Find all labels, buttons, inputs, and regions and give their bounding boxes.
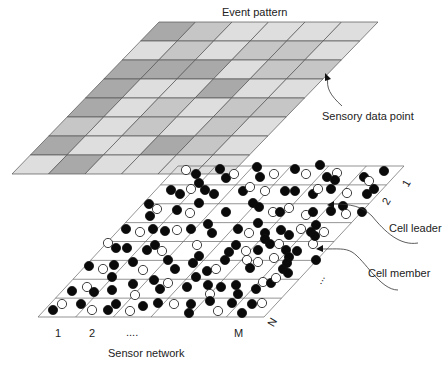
cell-member-node (103, 238, 112, 247)
cell-leader-node (231, 280, 240, 289)
cell-leader-node (233, 224, 242, 233)
cell-leader-node (48, 305, 57, 314)
cell-leader-node (182, 282, 191, 291)
cell-leader-node (253, 218, 262, 227)
cell-leader-node (265, 239, 274, 248)
cell-member-node (125, 306, 134, 315)
cell-leader-node (220, 255, 229, 264)
cell-member-node (284, 203, 293, 212)
cell-leader-node (315, 160, 324, 169)
cell-leader-node (172, 205, 181, 214)
cell-leader-node (237, 308, 246, 317)
cell-leader-node (221, 207, 230, 216)
cell-leader-label: Cell leader (389, 222, 442, 234)
cell-leader-node (280, 186, 289, 195)
cell-leader-node (308, 207, 317, 216)
cell-leader-node (254, 202, 263, 211)
cell-leader-node (67, 286, 76, 295)
cell-leader-node (216, 282, 225, 291)
cell-leader-node (184, 308, 193, 317)
cell-leader-node (191, 169, 200, 178)
cell-leader-node (247, 299, 256, 308)
cell-leader-node (203, 219, 212, 228)
cell-leader-node (253, 245, 262, 254)
cell-leader-node (76, 299, 85, 308)
cell-leader-node (84, 261, 93, 270)
cell-member-node (364, 176, 373, 185)
cell-leader-node (166, 185, 175, 194)
cell-member-node (319, 227, 328, 236)
cell-member-node (342, 188, 351, 197)
cell-member-node (241, 246, 250, 255)
cell-member-node (186, 184, 195, 193)
cell-leader-node (255, 172, 264, 181)
cell-leader-node (107, 285, 116, 294)
cell-leader-node (103, 305, 112, 314)
cell-member-node (185, 208, 194, 217)
cell-leader-node (202, 266, 211, 275)
sensor-nodes (48, 160, 388, 317)
event-pattern-grid (12, 22, 378, 174)
cell-leader-node (292, 246, 301, 255)
cell-leader-node (252, 162, 261, 171)
cell-member-node (152, 204, 161, 213)
sensory-data-point-label: Sensory data point (322, 110, 414, 122)
event-pattern-title: Event pattern (222, 6, 287, 18)
cell-member-node (341, 209, 350, 218)
cell-leader-node (209, 189, 218, 198)
cell-leader-node (163, 255, 172, 264)
cell-leader-node (145, 211, 154, 220)
sensory-data-point-arrow (328, 77, 342, 106)
cell-leader-node (188, 258, 197, 267)
cell-leader-node (311, 255, 320, 264)
cell-leader-node (121, 224, 130, 233)
cell-member-node (296, 224, 305, 233)
cell-member-node (57, 299, 66, 308)
cell-leader-node (311, 220, 320, 229)
cell-leader-node (170, 264, 179, 273)
cell-leader-node (233, 289, 242, 298)
cell-leader-node (379, 166, 388, 175)
cell-leader-node (215, 164, 224, 173)
cell-leader-node (160, 226, 169, 235)
cell-leader-node (284, 230, 293, 239)
cell-member-node (87, 305, 96, 314)
cell-leader-node (111, 243, 120, 252)
column-label-1: 1 (55, 327, 61, 339)
cell-member-node (135, 227, 144, 236)
cell-leader-node (89, 287, 98, 296)
cell-leader-node (186, 224, 195, 233)
cell-leader-node (310, 231, 319, 240)
cell-member-node (269, 169, 278, 178)
cell-member-node (138, 265, 147, 274)
cell-member-node (269, 253, 278, 262)
cell-member-node (260, 186, 269, 195)
cell-leader-node (128, 279, 137, 288)
column-label-m: M (234, 327, 243, 339)
cell-leader-node (200, 185, 209, 194)
cell-member-node (229, 169, 238, 178)
cell-member-node (245, 182, 254, 191)
cell-leader-node (107, 272, 116, 281)
cell-leader-node (283, 268, 292, 277)
cell-leader-node (111, 299, 120, 308)
cell-leader-node (205, 296, 214, 305)
cell-member-node (313, 184, 322, 193)
cell-member-node (257, 298, 266, 307)
cell-leader-node (122, 243, 131, 252)
cell-leader-node (326, 206, 335, 215)
cell-leader-node (207, 228, 216, 237)
cell-leader-node (149, 275, 158, 284)
cell-leader-node (203, 280, 212, 289)
cell-leader-node (109, 260, 118, 269)
cell-leader-node (186, 299, 195, 308)
cell-member-node (244, 228, 253, 237)
cell-leader-node (194, 198, 203, 207)
cell-member-node (271, 273, 280, 282)
cell-leader-node (282, 258, 291, 267)
cell-member-node (130, 290, 139, 299)
cell-leader-node (276, 225, 285, 234)
cell-leader-node (251, 284, 260, 293)
sensor-network-label: Sensor network (108, 347, 184, 359)
cell-member-node (213, 306, 222, 315)
